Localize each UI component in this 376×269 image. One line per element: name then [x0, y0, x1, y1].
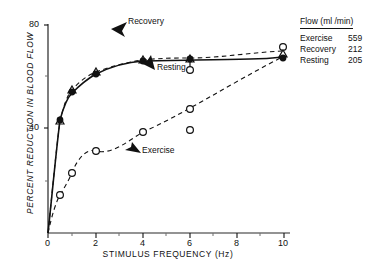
legend: Flow (ml /min) Exercise 559 Recovery 212…: [300, 16, 362, 66]
series-resting: [48, 55, 286, 233]
x-tick-label-2: 2: [93, 238, 98, 248]
series-recovery: [48, 50, 287, 233]
annotation-recovery: Recovery: [128, 16, 164, 26]
legend-value-exercise: 559: [348, 33, 362, 44]
figure-container: PERCENT REDUCTION IN BLOOD FLOW STIMULUS…: [0, 0, 376, 269]
y-tick-label-80: 80: [29, 19, 39, 29]
legend-value-resting: 205: [348, 55, 362, 66]
annotation-exercise: Exercise: [142, 145, 175, 155]
annotation-resting: Resting: [157, 62, 186, 72]
legend-row-exercise: Exercise 559: [300, 33, 362, 44]
legend-title: Flow (ml /min): [300, 16, 353, 29]
x-axis-title: STIMULUS FREQUENCY (Hz): [48, 249, 288, 259]
series-exercise: [48, 44, 286, 233]
legend-row-resting: Resting 205: [300, 55, 362, 66]
x-tick-label-10: 10: [278, 238, 288, 248]
x-tick-label-4: 4: [140, 238, 145, 248]
x-tick-label-6: 6: [187, 238, 192, 248]
legend-label-exercise: Exercise: [300, 33, 344, 44]
y-tick-label-40: 40: [29, 122, 39, 132]
annotation-arrows: [111, 22, 155, 153]
x-tick-label-0: 0: [45, 238, 50, 248]
axes-lines: [44, 24, 290, 238]
legend-row-recovery: Recovery 212: [300, 44, 362, 55]
x-tick-label-8: 8: [234, 238, 239, 248]
legend-value-recovery: 212: [348, 44, 362, 55]
legend-label-resting: Resting: [300, 55, 344, 66]
legend-label-recovery: Recovery: [300, 44, 344, 55]
